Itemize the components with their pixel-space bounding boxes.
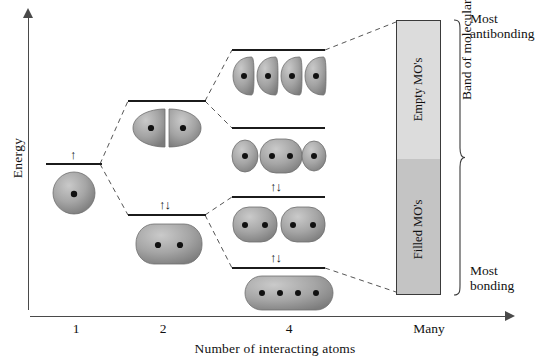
orbital-4atom-l1: [243, 273, 335, 313]
band-empty-label: Empty MO's: [411, 46, 426, 134]
energy-axis-arrow: [23, 8, 33, 18]
spin-4atom-l1: ↑↓: [270, 251, 281, 264]
level-4atom-l2: [232, 196, 325, 198]
level-4atom-l1: [232, 267, 325, 269]
orbital-4atom-l2: [231, 202, 327, 246]
most-antibonding-line1: Most: [470, 11, 535, 26]
most-antibonding-line2: antibonding: [470, 26, 535, 41]
spin-4atom-l2: ↑↓: [270, 180, 281, 193]
most-bonding-line2: bonding: [470, 278, 514, 293]
xtick-1: 1: [56, 321, 96, 337]
spin-2atom-bonding: ↑↓: [159, 198, 170, 211]
most-bonding-line1: Most: [470, 263, 514, 278]
level-2atom-bonding: [128, 214, 206, 216]
orbital-1atom-s: [51, 170, 97, 216]
level-4atom-l3: [232, 127, 325, 129]
xtick-many: Many: [399, 321, 459, 337]
level-1atom: [46, 163, 102, 165]
label-most-antibonding: Most antibonding: [470, 11, 535, 41]
spin-1atom: ↑: [70, 148, 76, 161]
energy-axis-label: Energy: [10, 118, 26, 198]
orbital-2atom-antibonding: [129, 106, 205, 150]
level-4atom-l4: [232, 49, 325, 51]
orbital-2atom-bonding: [133, 220, 205, 268]
xtick-4: 4: [269, 321, 309, 337]
orbital-4atom-l4: [231, 55, 327, 97]
atoms-axis-arrow: [505, 311, 515, 321]
level-2atom-antibonding: [128, 100, 206, 102]
label-band-of-mos: Band of molecular orbitals: [459, 0, 475, 100]
energy-axis-line: [28, 14, 29, 310]
atoms-axis-line: [30, 316, 510, 317]
atoms-axis-label: Number of interacting atoms: [150, 341, 400, 357]
diagram-canvas: Energy Number of interacting atoms 1 2 4…: [0, 0, 551, 364]
label-most-bonding: Most bonding: [470, 263, 514, 293]
orbital-4atom-l3: [231, 133, 327, 177]
band-filled-label: Filled MO's: [411, 186, 426, 274]
xtick-2: 2: [143, 321, 183, 337]
